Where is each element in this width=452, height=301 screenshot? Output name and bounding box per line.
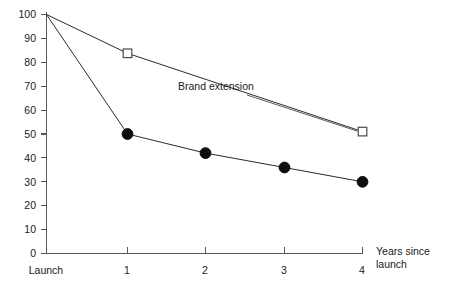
x-tick-label-4: 4 — [359, 264, 365, 276]
x-axis-tick-labels: Launch 1 2 3 4 — [29, 264, 365, 276]
y-tick-label-90: 90 — [24, 32, 36, 44]
marker-new-brand-year-3 — [279, 162, 290, 173]
x-tick-label-2: 2 — [202, 264, 208, 276]
x-tick-label-1: 1 — [124, 264, 130, 276]
chart-container: 0 10 20 30 40 50 60 70 80 90 100 Launch … — [0, 0, 452, 301]
line-chart: 0 10 20 30 40 50 60 70 80 90 100 Launch … — [0, 0, 452, 301]
y-tick-label-50: 50 — [24, 128, 36, 140]
x-axis-title-line-2: launch — [376, 258, 407, 270]
marker-new-brand-year-2 — [200, 148, 211, 159]
y-tick-label-10: 10 — [24, 223, 36, 235]
series-brand-extension — [47, 15, 367, 136]
x-tick-label-launch: Launch — [29, 264, 64, 276]
annotation-brand-extension-label: Brand extension — [178, 80, 254, 92]
annotation-brand-extension-leader-line — [247, 95, 357, 131]
y-tick-label-0: 0 — [30, 247, 36, 259]
y-tick-label-60: 60 — [24, 104, 36, 116]
y-tick-label-70: 70 — [24, 80, 36, 92]
marker-new-brand-year-4 — [357, 176, 368, 187]
marker-brand-extension-year-1 — [123, 49, 132, 58]
annotation-brand-extension: Brand extension — [178, 80, 357, 131]
y-axis-tick-labels: 0 10 20 30 40 50 60 70 80 90 100 — [18, 8, 36, 259]
y-tick-label-40: 40 — [24, 152, 36, 164]
x-axis-title-line-1: Years since — [376, 245, 430, 257]
x-tick-label-3: 3 — [281, 264, 287, 276]
x-axis-ticks — [47, 247, 363, 254]
y-tick-label-100: 100 — [18, 8, 36, 20]
marker-new-brand-year-1 — [122, 129, 133, 140]
series-new-brand — [47, 15, 368, 188]
marker-brand-extension-year-4 — [358, 127, 367, 136]
y-tick-label-80: 80 — [24, 56, 36, 68]
y-tick-label-20: 20 — [24, 199, 36, 211]
x-axis-title: Years since launch — [376, 245, 430, 270]
series-brand-extension-line — [47, 15, 363, 132]
y-tick-label-30: 30 — [24, 176, 36, 188]
y-axis-ticks — [41, 15, 47, 254]
